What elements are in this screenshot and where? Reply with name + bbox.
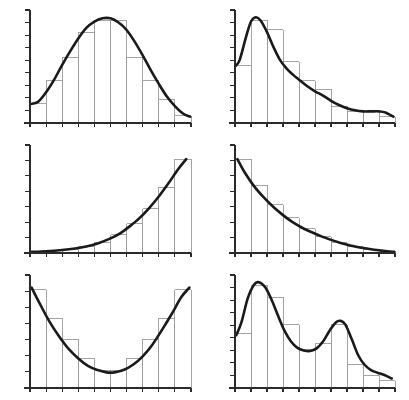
histogram-bar xyxy=(251,185,267,253)
histogram-bar xyxy=(143,81,159,123)
histogram-bar xyxy=(143,209,159,253)
histogram-bar xyxy=(347,111,363,123)
axes xyxy=(24,275,191,392)
histogram-bar xyxy=(379,381,395,388)
density-curve xyxy=(237,159,394,252)
histogram-bar xyxy=(235,159,251,253)
histogram-bar xyxy=(283,62,299,123)
histogram-panel-top-left xyxy=(0,0,205,135)
axes xyxy=(229,275,395,392)
histogram-bar xyxy=(159,318,175,388)
histogram-bar xyxy=(363,111,379,123)
histogram-bar xyxy=(283,218,299,253)
axes xyxy=(24,10,191,127)
histogram-bars xyxy=(235,159,395,253)
histogram-bar xyxy=(235,333,251,388)
histogram-panel-middle-right xyxy=(205,135,409,265)
density-curve xyxy=(31,159,186,252)
histogram-bar xyxy=(30,290,46,388)
histogram-bar xyxy=(235,66,251,123)
histogram-bar xyxy=(251,20,267,123)
axes xyxy=(229,145,395,257)
histogram-bar xyxy=(78,32,94,123)
histogram-bar xyxy=(251,285,267,388)
histogram-bars xyxy=(235,285,395,388)
histogram-bar xyxy=(62,57,78,123)
histogram-bar xyxy=(175,159,191,253)
histogram-bar xyxy=(111,20,127,123)
histogram-panel-grid xyxy=(0,0,409,400)
histogram-panel-bottom-left xyxy=(0,265,205,400)
histogram-bar xyxy=(62,339,78,388)
histogram-bar xyxy=(267,30,283,123)
histogram-bar xyxy=(127,57,143,123)
density-curve xyxy=(236,282,392,378)
density-curve xyxy=(32,288,190,373)
axes xyxy=(229,10,395,127)
histogram-bars xyxy=(30,20,191,123)
histogram-bar xyxy=(159,187,175,253)
histogram-bar xyxy=(30,104,46,123)
histogram-bar xyxy=(363,375,379,388)
histogram-bars xyxy=(235,20,395,123)
histogram-panel-bottom-right xyxy=(205,265,409,400)
histogram-bar xyxy=(315,344,331,388)
histogram-bar xyxy=(299,350,315,388)
histogram-panel-middle-left xyxy=(0,135,205,265)
histogram-bar xyxy=(347,365,363,388)
histogram-bar xyxy=(94,20,110,123)
histogram-bar xyxy=(78,358,94,388)
histogram-panel-top-right xyxy=(205,0,409,135)
histogram-bar xyxy=(331,325,347,388)
